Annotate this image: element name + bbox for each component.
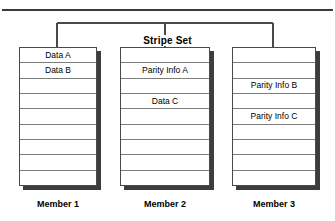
disk-row bbox=[20, 140, 96, 155]
disk-row bbox=[20, 155, 96, 170]
disk-row bbox=[121, 79, 209, 94]
disk-row bbox=[233, 63, 315, 78]
disk-row bbox=[121, 48, 209, 63]
disk-row bbox=[121, 155, 209, 170]
disk-row bbox=[121, 125, 209, 140]
member-columns: Data A Data B Member 1 Parity Info A Dat… bbox=[0, 0, 335, 221]
disk-row: Parity Info B bbox=[233, 79, 315, 94]
disk-row bbox=[20, 79, 96, 94]
disk-row: Data B bbox=[20, 63, 96, 78]
disk-row bbox=[233, 94, 315, 109]
disk-row bbox=[121, 109, 209, 124]
member-label-3: Member 3 bbox=[232, 199, 316, 209]
disk-row bbox=[233, 171, 315, 185]
disk-row: Data A bbox=[20, 48, 96, 63]
disk-3: Parity Info B Parity Info C bbox=[232, 47, 316, 186]
disk-1: Data A Data B bbox=[19, 47, 97, 186]
stripe-set-diagram: Stripe Set Data A Data B Member 1 bbox=[0, 0, 335, 221]
disk-row bbox=[233, 125, 315, 140]
disk-row bbox=[233, 48, 315, 63]
disk-row: Data C bbox=[121, 94, 209, 109]
disk-2: Parity Info A Data C bbox=[120, 47, 210, 186]
disk-row: Parity Info A bbox=[121, 63, 209, 78]
disk-row bbox=[20, 109, 96, 124]
disk-row bbox=[233, 155, 315, 170]
disk-row bbox=[20, 171, 96, 185]
disk-row bbox=[233, 140, 315, 155]
disk-row bbox=[121, 171, 209, 185]
disk-row bbox=[20, 125, 96, 140]
member-label-1: Member 1 bbox=[19, 199, 97, 209]
disk-row bbox=[20, 94, 96, 109]
disk-row bbox=[121, 140, 209, 155]
member-label-2: Member 2 bbox=[120, 199, 210, 209]
disk-row: Parity Info C bbox=[233, 109, 315, 124]
